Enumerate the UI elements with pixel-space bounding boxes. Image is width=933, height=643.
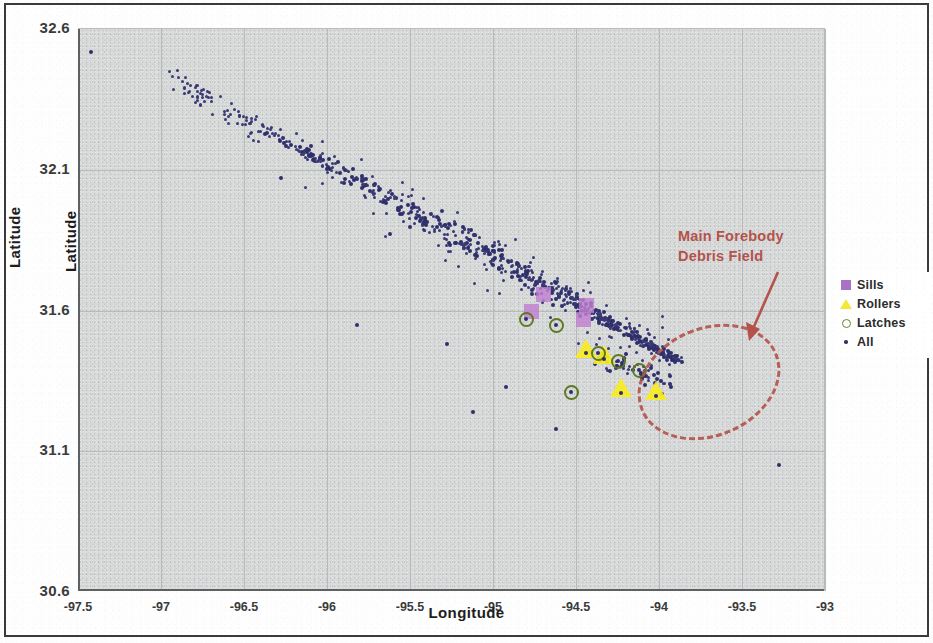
data-point-all bbox=[520, 288, 523, 291]
data-point-all bbox=[497, 240, 500, 243]
data-point-all bbox=[279, 176, 283, 180]
data-point-all bbox=[219, 95, 222, 98]
data-point-all bbox=[206, 90, 209, 93]
data-point-all bbox=[309, 144, 313, 148]
data-point-all bbox=[184, 76, 187, 79]
data-point-all bbox=[656, 345, 659, 348]
data-point-all bbox=[338, 171, 342, 175]
purple-square-marker-glyph bbox=[841, 280, 851, 290]
data-point-all bbox=[528, 265, 531, 268]
data-point-all bbox=[410, 194, 413, 197]
legend-item-rollers[interactable]: Rollers bbox=[838, 295, 930, 313]
data-point-all bbox=[637, 368, 641, 372]
legend-label: Sills bbox=[857, 278, 884, 292]
x-axis-title: Longitude bbox=[0, 604, 933, 621]
legend-item-sills[interactable]: Sills bbox=[838, 276, 930, 294]
data-point-all bbox=[247, 135, 250, 138]
horizontal-gridline bbox=[78, 170, 824, 171]
data-point-all bbox=[510, 259, 513, 262]
data-point-all bbox=[563, 303, 566, 306]
data-point-all bbox=[199, 104, 202, 107]
y-tick-label: 31.1 bbox=[8, 441, 70, 458]
data-point-all bbox=[574, 297, 577, 300]
data-point-all bbox=[411, 188, 414, 191]
data-point-all bbox=[407, 195, 410, 198]
data-point-all bbox=[382, 198, 385, 201]
data-point-all bbox=[530, 269, 533, 272]
data-point-all bbox=[619, 346, 622, 349]
data-point-all bbox=[566, 301, 569, 304]
data-point-all bbox=[619, 391, 623, 395]
data-point-all bbox=[236, 122, 239, 125]
data-point-all bbox=[333, 155, 336, 158]
data-point-all bbox=[230, 102, 233, 105]
data-point-all bbox=[449, 250, 452, 253]
data-point-all bbox=[201, 93, 204, 96]
data-point-all bbox=[321, 140, 324, 143]
data-point-all bbox=[661, 326, 664, 329]
annotation-line-1: Main Forebody bbox=[678, 228, 784, 244]
data-point-all bbox=[252, 139, 255, 142]
data-point-all bbox=[460, 242, 463, 245]
data-point-all bbox=[536, 282, 539, 285]
data-point-sill bbox=[536, 287, 551, 302]
data-point-all bbox=[172, 88, 175, 91]
yellow-triangle-marker-glyph bbox=[840, 299, 852, 309]
data-point-all bbox=[624, 326, 628, 330]
data-point-all bbox=[250, 117, 253, 120]
data-point-all bbox=[517, 265, 520, 268]
data-point-all bbox=[554, 427, 558, 431]
data-point-all bbox=[282, 141, 286, 145]
data-point-all bbox=[196, 90, 199, 93]
data-point-all bbox=[642, 345, 645, 348]
data-point-all bbox=[444, 259, 447, 262]
data-point-all bbox=[467, 228, 470, 231]
data-point-all bbox=[448, 243, 452, 247]
data-point-all bbox=[532, 256, 535, 259]
data-point-all bbox=[373, 196, 376, 199]
data-point-all bbox=[473, 282, 476, 285]
purple-square-marker bbox=[838, 280, 854, 290]
data-point-all bbox=[268, 135, 271, 138]
data-point-all bbox=[335, 171, 338, 174]
legend-item-latches[interactable]: Latches bbox=[838, 314, 930, 332]
data-point-all bbox=[351, 167, 355, 171]
data-point-all bbox=[301, 139, 304, 142]
data-point-all bbox=[550, 282, 553, 285]
data-point-all bbox=[269, 128, 272, 131]
data-point-all bbox=[422, 197, 425, 200]
data-point-all bbox=[336, 160, 340, 164]
data-point-all bbox=[493, 244, 496, 247]
chart-legend: SillsRollersLatchesAll bbox=[835, 272, 933, 358]
data-point-all bbox=[176, 69, 179, 72]
data-point-all bbox=[493, 251, 496, 254]
data-point-all bbox=[89, 50, 93, 54]
data-point-all bbox=[364, 177, 368, 181]
data-point-all bbox=[413, 222, 416, 225]
data-point-all bbox=[421, 224, 424, 227]
data-point-all bbox=[326, 165, 330, 169]
data-point-all bbox=[468, 238, 472, 242]
data-point-all bbox=[191, 95, 194, 98]
data-point-all bbox=[466, 246, 470, 250]
data-point-all bbox=[570, 290, 573, 293]
data-point-all bbox=[452, 230, 455, 233]
legend-item-all[interactable]: All bbox=[838, 333, 930, 351]
data-point-all bbox=[211, 113, 214, 116]
data-point-all bbox=[531, 278, 534, 281]
data-point-all bbox=[538, 279, 541, 282]
data-point-all bbox=[615, 327, 619, 331]
data-point-all bbox=[627, 368, 630, 371]
data-point-all bbox=[561, 287, 564, 290]
data-point-all bbox=[471, 410, 475, 414]
data-point-all bbox=[500, 271, 503, 274]
data-point-all bbox=[372, 193, 375, 196]
data-point-all bbox=[241, 123, 244, 126]
data-point-all bbox=[524, 271, 528, 275]
data-point-all bbox=[384, 235, 387, 238]
data-point-all bbox=[530, 292, 534, 296]
data-point-all bbox=[489, 260, 492, 263]
data-point-all bbox=[418, 208, 421, 211]
data-point-all bbox=[500, 248, 504, 252]
data-point-all bbox=[523, 283, 527, 287]
